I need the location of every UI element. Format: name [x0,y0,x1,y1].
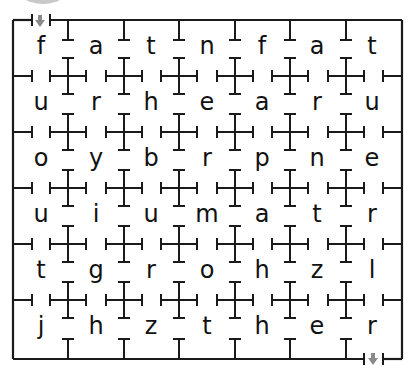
maze-letter: i [76,199,116,229]
maze-letter: r [187,143,227,173]
maze-letter: a [242,199,282,229]
maze-letter: u [21,87,61,117]
maze-letter: o [21,143,61,173]
maze-letter: u [352,87,392,117]
maze-letter: h [242,311,282,341]
maze-letter: t [131,31,171,61]
maze-letter: m [187,199,227,229]
maze-letter: t [297,199,337,229]
maze-letter: e [297,311,337,341]
maze-letter: r [352,311,392,341]
maze-letter: a [76,31,116,61]
maze-letter: j [21,311,61,341]
maze-letter: e [352,143,392,173]
maze-letter: h [242,255,282,285]
maze-letter: t [187,311,227,341]
maze-letter: t [21,255,61,285]
maze-letter: g [76,255,116,285]
maze-letter: e [187,87,227,117]
maze-letter: n [187,31,227,61]
maze-letter: p [242,143,282,173]
maze-letter: h [76,311,116,341]
start-arrow-icon [35,12,45,24]
maze-letter: r [352,199,392,229]
maze-letter: z [297,255,337,285]
finish-arrow-icon [368,350,378,362]
maze-letter: r [76,87,116,117]
maze-letter: a [297,31,337,61]
maze-letter: b [131,143,171,173]
maze-letter: z [131,311,171,341]
maze-letter: l [352,255,392,285]
maze-letter: r [131,255,171,285]
maze-letter: o [187,255,227,285]
maze-letter: u [21,199,61,229]
maze-letter: u [131,199,171,229]
maze-letter: f [242,31,282,61]
maze-letter: n [297,143,337,173]
maze-letter: t [352,31,392,61]
maze-letter: h [131,87,171,117]
maze-letter: f [21,31,61,61]
maze-letter: r [297,87,337,117]
maze-letter: y [76,143,116,173]
maze-letter: a [242,87,282,117]
